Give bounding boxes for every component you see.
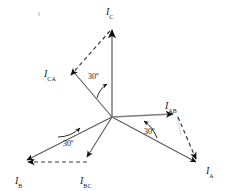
phasor-iab [112, 114, 173, 117]
angle-label-top: 30º [88, 73, 98, 81]
label-ib-subscript: B [18, 183, 22, 189]
label-ibc-subscript: BC [83, 183, 91, 189]
phasor-diagram-figure: IC ICA IAB IA IB IBC 30º 30º 30º [0, 0, 228, 191]
angle-arc-left [58, 128, 80, 137]
label-ia: IA [206, 161, 214, 179]
dashed-ia [178, 117, 196, 159]
label-ica: ICA [44, 64, 56, 82]
label-iab: IAB [165, 96, 177, 114]
label-ibc: IBC [80, 171, 92, 189]
phasor-diagram-canvas [0, 0, 228, 191]
angle-arc-top [97, 84, 107, 98]
angle-label-left: 30º [63, 140, 73, 148]
label-ia-subscript: A [209, 173, 213, 179]
label-ib: IB [15, 171, 22, 189]
label-ic-subscript: C [109, 14, 113, 20]
dashed-ica [71, 31, 110, 75]
angle-label-right: 30º [144, 128, 154, 136]
label-iab-subscript: AB [168, 108, 177, 114]
label-ic: IC [106, 2, 113, 20]
label-ica-subscript: CA [47, 76, 56, 82]
phasor-ia [112, 117, 196, 162]
